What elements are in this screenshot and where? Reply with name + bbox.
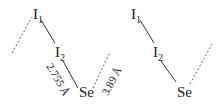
bond-i1-i2-right (140, 20, 154, 43)
atom-i1-right: I1 (131, 6, 141, 25)
bond-i2-se-right (161, 61, 176, 82)
atom-se-right: Se (177, 84, 192, 100)
atom-i1-left: I1 (33, 6, 43, 25)
atom-i2-left: I2 (55, 44, 65, 63)
contact-distance-label: 3.89 Å (99, 65, 124, 97)
atom-i2-right: I2 (153, 44, 163, 63)
diagram-canvas: I1 I2 Se 2.755 Å 3.89 Å I1 I2 Se (0, 0, 222, 105)
atom-se-left: Se (79, 84, 94, 100)
bond-i1-i2-left (41, 20, 55, 43)
dashed-contact-right-edge (190, 44, 212, 84)
dashed-contact-left-edge (12, 17, 32, 53)
bond-distance-label: 2.755 Å (44, 61, 72, 98)
